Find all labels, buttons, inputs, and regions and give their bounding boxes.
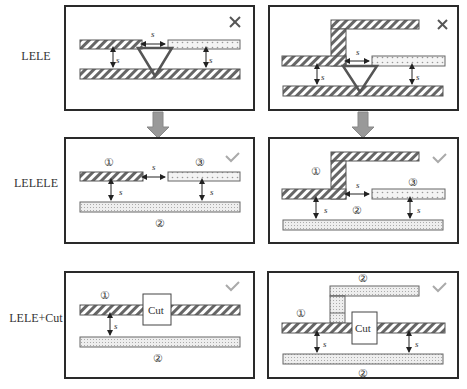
mask2-label: ② [358,272,368,284]
panel-lelele-bend: ① ③ ② s s s [269,138,458,243]
mask2-label: ② [153,352,163,364]
mask1-bar [331,152,419,161]
spacing-label: s [416,72,420,82]
mask2-bar [330,286,419,296]
panel-lele-bend: s s s [269,6,458,110]
spacing-label: s [151,29,155,39]
mask2-bar [80,202,240,212]
mask2-bar [283,354,443,364]
pass-check-icon [226,153,239,161]
mask2-bar [80,337,240,347]
mask2-label: ② [155,217,165,229]
pass-check-icon [226,282,239,290]
mask1-bar [282,189,346,199]
mask1-bar [80,69,240,79]
mask2-bar [283,220,443,230]
cut-label: Cut [148,304,164,316]
spacing-label: s [324,205,328,215]
spacing-label: s [417,205,421,215]
spacing-label: s [114,321,118,331]
fail-x-icon [230,17,240,27]
down-arrow-icon [352,112,374,138]
spacing-label: s [356,47,360,57]
mask2-bar [168,40,240,49]
mask1-bar [331,20,419,29]
mask2-bar [372,56,445,66]
mask3-label: ③ [408,176,418,188]
mask1-bar [80,40,142,49]
spacing-label: s [356,180,360,190]
mask2-label: ② [358,367,368,379]
spacing-label: s [152,162,156,172]
spacing-label: s [415,339,419,349]
spacing-label: s [116,55,120,65]
mask3-bar [372,189,445,199]
mask1-label: ① [311,165,321,177]
panel-frame [65,6,254,110]
spacing-label: s [209,55,213,65]
mask1-label: ① [100,289,110,301]
pass-check-icon [433,154,446,162]
panel-lele-cut-bend: ② ① Cut ② s s [268,272,458,379]
mask3-label: ③ [195,156,205,168]
mask1-label: ① [104,156,114,168]
cut-label: Cut [355,322,371,334]
spacing-label: s [210,187,214,197]
diagram-canvas: s s s s s s ① ③ [0,0,467,389]
panel-lelele-straight: ① ③ ② s s s [65,138,254,243]
mask1-bar [80,172,143,181]
pass-check-icon [433,283,446,291]
spacing-label: s [321,72,325,82]
fail-x-icon [438,20,447,29]
mask1-bar [282,56,346,66]
mask1-label: ① [296,307,306,319]
spacing-label: s [323,339,327,349]
spacing-label: s [119,187,123,197]
panel-lele-straight: s s s [65,6,254,110]
mask2-bar [330,296,345,323]
mask2-label: ② [352,204,362,216]
mask3-bar [168,172,240,181]
down-arrow-icon [147,112,169,138]
panel-lele-cut-straight: ① Cut ② s [65,272,254,378]
